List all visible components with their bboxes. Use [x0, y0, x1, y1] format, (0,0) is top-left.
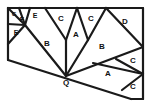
region-label-f1: F [20, 16, 25, 23]
region-label-c2: C [88, 14, 94, 23]
region-label-e1: E [33, 12, 38, 19]
region-label-d1: D [122, 17, 128, 26]
geometric-dissection-figure: GFEECCDABBCACQ [0, 0, 151, 107]
region-label-c1: C [58, 14, 64, 23]
region-label-a2: A [105, 69, 111, 78]
region-label-b2: B [99, 42, 105, 51]
segment-e-left-lower [8, 24, 25, 25]
region-label-a1: A [73, 30, 79, 39]
region-label-g1: G [12, 11, 17, 17]
region-label-q1: Q [63, 78, 69, 87]
region-label-c4: C [130, 82, 136, 91]
region-label-b1: B [44, 39, 50, 48]
region-label-c3: C [130, 56, 136, 65]
figure-canvas: GFEECCDABBCACQ [0, 0, 151, 107]
region-label-e2: E [14, 29, 19, 36]
